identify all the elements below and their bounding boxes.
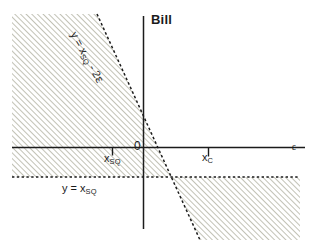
tick-label-x-sq-main: x bbox=[104, 152, 110, 164]
tick-label-x-c-sub: C bbox=[208, 156, 214, 165]
region-lower-right bbox=[160, 177, 300, 240]
tick-label-x-sq: xSQ bbox=[104, 153, 121, 164]
region-upper-left bbox=[12, 14, 178, 177]
curve-label-xsq-sub: SQ bbox=[86, 187, 97, 196]
y-axis-label: Bill bbox=[151, 13, 172, 26]
curve-label-y-equals-xsq: y = xSQ bbox=[62, 183, 97, 194]
x-axis-label: ε bbox=[292, 143, 296, 152]
plot-svg bbox=[0, 0, 312, 251]
tick-label-x-c-main: x bbox=[202, 151, 208, 163]
tick-label-x-c: xC bbox=[202, 152, 213, 163]
figure-canvas: Bill ε 0 xSQ xC y = xSQ y = xSQ - 2ε bbox=[0, 0, 312, 251]
curve-label-xsq-main: y = x bbox=[62, 182, 86, 194]
origin-label: 0 bbox=[134, 140, 141, 152]
tick-label-x-sq-sub: SQ bbox=[110, 157, 121, 166]
